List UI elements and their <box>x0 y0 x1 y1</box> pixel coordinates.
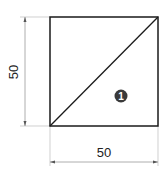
arrow-right-icon <box>153 161 158 164</box>
width-dimension-label: 50 <box>97 145 111 160</box>
arrow-left-icon <box>50 161 55 164</box>
diagonal-line <box>50 17 158 126</box>
arrow-up-icon <box>24 17 27 22</box>
technical-drawing: 1 50 50 <box>0 0 165 171</box>
height-dimension-label: 50 <box>6 65 21 79</box>
arrow-down-icon <box>24 121 27 126</box>
region-badge-label: 1 <box>118 91 124 102</box>
